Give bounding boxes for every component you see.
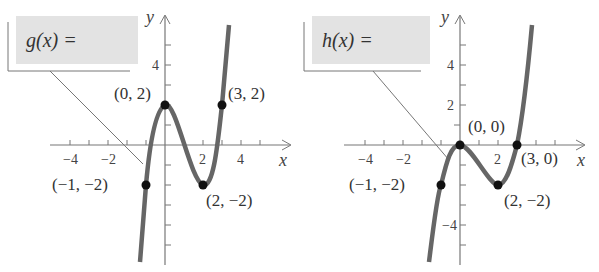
point-neg1-neg2 <box>437 181 446 190</box>
point-label: (2, −2) <box>504 191 550 210</box>
graph-h: −4 −2 2 4 2 −4 x y (0, 0) (3, 0) (−1, −2… <box>299 0 599 272</box>
y-tick-label: 4 <box>152 58 159 73</box>
point-2-neg2 <box>494 181 503 190</box>
point-label: (0, 0) <box>468 117 505 136</box>
function-label: g(x) = <box>26 29 77 51</box>
y-axis-label: y <box>144 7 154 27</box>
x-tick-label: 2 <box>494 152 501 167</box>
x-axis-label: x <box>278 150 287 170</box>
point-neg1-neg2 <box>142 181 151 190</box>
graph-g: −4 −2 2 4 4 x y (0, 2) (3, 2) (−1, −2) (… <box>0 0 300 272</box>
function-label-box-g: g(x) = <box>16 16 138 64</box>
callout-leader-line <box>373 71 449 160</box>
x-axis-label: x <box>576 150 585 170</box>
y-axis-label: y <box>439 7 449 27</box>
point-label: (3, 2) <box>228 84 265 103</box>
point-3-2 <box>218 101 227 110</box>
function-label-box-h: h(x) = <box>312 16 430 64</box>
x-tick-label: −4 <box>63 152 78 167</box>
point-label: (−1, −2) <box>349 175 405 194</box>
x-tick-label: −2 <box>101 152 116 167</box>
y-tick-label: −4 <box>442 218 457 233</box>
x-tick-label: 2 <box>199 152 206 167</box>
point-label: (2, −2) <box>206 191 252 210</box>
x-tick-label: −4 <box>358 152 373 167</box>
x-tick-label: −2 <box>396 152 411 167</box>
y-tick-label: 4 <box>447 58 454 73</box>
x-tick-label: 4 <box>237 152 244 167</box>
point-0-2 <box>161 101 170 110</box>
point-label: (3, 0) <box>521 149 558 168</box>
function-label: h(x) = <box>322 29 373 51</box>
y-tick-label: 2 <box>447 98 454 113</box>
point-2-neg2 <box>199 181 208 190</box>
point-label: (0, 2) <box>114 84 151 103</box>
point-label: (−1, −2) <box>52 175 108 194</box>
point-0-0 <box>456 141 465 150</box>
